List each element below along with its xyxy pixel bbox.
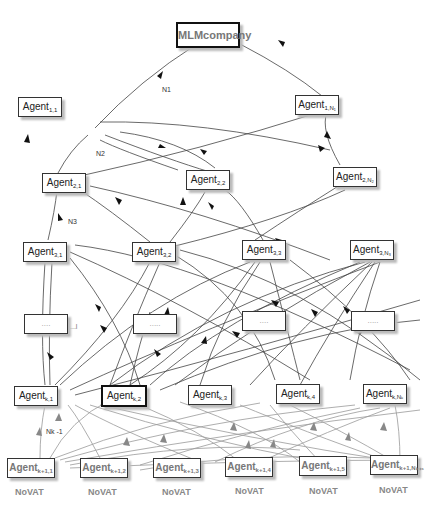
node-ellipsis-2: .....	[133, 314, 177, 334]
node-agent-k1-n: Agentk+1,Nₖ₊₁	[370, 455, 418, 475]
label-nk-1: Nk -1	[46, 428, 63, 435]
novat-label-4: NoVAT	[235, 486, 264, 496]
node-agent-k-nk: Agentk,Nₖ	[363, 384, 407, 404]
node-agent-k-1: Agentk,1	[14, 386, 58, 406]
node-agent-k1-2: Agentk+1,2	[80, 458, 128, 478]
novat-label-6: NoVAT	[379, 485, 408, 495]
node-agent-2-1: Agent2,1	[42, 173, 86, 193]
node-ellipsis-4: .....	[351, 311, 395, 331]
node-agent-2-n2: Agent2,N₂	[333, 167, 377, 187]
novat-label-2: NoVAT	[88, 487, 117, 497]
node-agent-k-2: Agentk,2	[101, 385, 147, 407]
label-ellipsis: ...l	[70, 323, 77, 330]
node-ellipsis-3: ....	[242, 311, 286, 331]
node-agent-k1-5: Agentk+1,5	[299, 456, 347, 476]
node-agent-k-4: Agentk,4	[276, 384, 320, 404]
node-mlmcompany: MLMcompany	[176, 22, 240, 48]
node-agent-3-2: Agent3,2	[132, 242, 176, 262]
label-n3: N3	[68, 218, 77, 225]
novat-label-1: NoVAT	[15, 487, 44, 497]
node-agent-3-n3: Agent3,N₃	[350, 240, 394, 260]
node-agent-k1-1: Agentk+1,1	[7, 458, 55, 478]
node-agent-3-3: Agent3,3	[242, 240, 286, 260]
node-ellipsis-1: ....	[24, 314, 68, 334]
node-agent-k1-3: Agentk+1,3	[153, 458, 201, 478]
novat-label-5: NoVAT	[309, 486, 338, 496]
node-agent-k1-4: Agentk+1,4	[225, 457, 273, 477]
node-agent-1-1: Agent1,1	[18, 97, 62, 117]
node-agent-2-2: Agent2,2	[186, 170, 230, 190]
node-agent-1-n1: Agent1,N₁	[295, 95, 339, 115]
label-n2: N2	[96, 150, 105, 157]
novat-label-3: NoVAT	[162, 487, 191, 497]
node-agent-k-3: Agentk,3	[188, 385, 232, 405]
label-n1: N1	[162, 86, 171, 93]
node-agent-3-1: Agent3,1	[23, 242, 67, 262]
